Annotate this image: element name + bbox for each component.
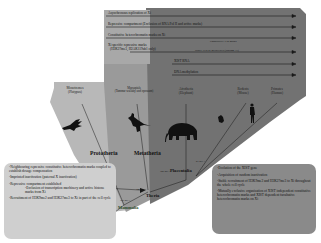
trait-xi-specific-marks-detail: (H3K27me3, H2AK119ub1 only) bbox=[110, 48, 156, 52]
trait-asynchronous-replication: Asynchronous replication of Xi bbox=[108, 12, 151, 16]
clade-metatheria: Metatheria bbox=[134, 150, 161, 156]
taxon-marsupials: Marsupials (Tammar wallaby and opossum) bbox=[112, 87, 156, 94]
taxon-example: (Platypus) bbox=[55, 91, 95, 95]
left-annotation-box: -Neighbouring repressive constitutive he… bbox=[4, 163, 116, 239]
trait-constitutive-note: Constitutive Xist marks bbox=[210, 40, 237, 44]
taxon-rodents: Rodents (Mouse) bbox=[228, 88, 258, 96]
right-annotation-box: -Evolution of the XIST gene -Acquisition… bbox=[212, 164, 316, 234]
left-box-item: -Neighbouring repressive constitutive he… bbox=[9, 166, 111, 174]
left-box-item: -Recruitment of H3K9me2 and H3K27me3 to … bbox=[9, 197, 111, 201]
taxon-monotremes: Monotremes (Platypus) bbox=[55, 87, 95, 95]
mya-theria: 148 MYA bbox=[136, 188, 146, 191]
left-box-item: -Imprinted inactivation (paternal X inac… bbox=[9, 176, 111, 180]
taxon-example: (Mouse) bbox=[228, 92, 258, 96]
taxon-primates: Primates (Human) bbox=[262, 88, 292, 96]
mya-placentalia: 105 MYA bbox=[160, 170, 170, 173]
trait-constitutive-heterochromatin: Constitutive heterochromatin marks on Xi bbox=[108, 34, 165, 38]
trait-dna-methylation: DNA methylation bbox=[174, 71, 198, 75]
trait-xist-rna: XIST RNA bbox=[174, 60, 189, 64]
taxon-example: (Elephant) bbox=[168, 92, 204, 96]
right-box-item: -Mutually exclusive organisation of XIST… bbox=[217, 190, 311, 202]
left-box-subitem: -Exclusion of transcription machinery an… bbox=[9, 187, 111, 195]
mya-boreoeutheria: 93 MYA bbox=[196, 160, 205, 163]
clade-prototheria: Prototheria bbox=[90, 150, 118, 156]
right-box-item: -Acquisition of random inactivation bbox=[217, 174, 311, 178]
trait-stable-h3k27: Stable H3K27 methylated (random Xi) bbox=[195, 49, 239, 53]
taxon-afrotheria: Afrotheria (Elephant) bbox=[168, 88, 204, 96]
taxon-example: (Human) bbox=[262, 92, 292, 96]
clade-placentalia: Placentalia bbox=[170, 168, 192, 173]
taxon-example: (Tammar wallaby and opossum) bbox=[112, 90, 156, 93]
clade-theria: Theria bbox=[146, 193, 159, 198]
mya-mammalia: 166 MYA bbox=[120, 199, 130, 202]
right-box-item: -Stable recruitment of H3K9me2 and H3K27… bbox=[217, 180, 311, 188]
trait-repressive-compartment: Repressive compartment (Exclusion of RNA… bbox=[108, 23, 202, 27]
clade-mammalia: Mammalia bbox=[118, 205, 139, 210]
right-box-item: -Evolution of the XIST gene bbox=[217, 167, 311, 171]
